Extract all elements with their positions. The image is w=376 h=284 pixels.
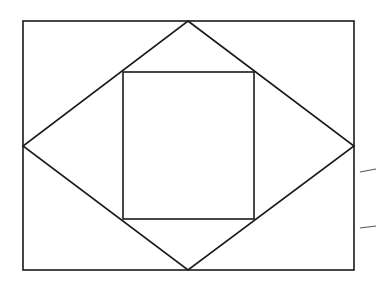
outer-rectangle [23, 21, 354, 270]
geometry-diagram [0, 0, 376, 284]
inner-rectangle [123, 72, 254, 219]
edge-marks [360, 169, 376, 228]
edge-mark-0 [360, 169, 376, 172]
edge-mark-1 [360, 226, 376, 228]
inscribed-rhombus [23, 21, 354, 270]
